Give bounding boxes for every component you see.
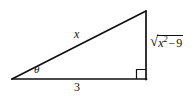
- hypotenuse-label: x: [74, 28, 79, 40]
- radical-sign-icon: √: [150, 34, 158, 49]
- angle-theta-label: θ: [34, 64, 39, 75]
- hypotenuse-line: [12, 11, 146, 79]
- radicand-exponent: 2: [164, 35, 168, 44]
- adjacent-side-label: 3: [74, 81, 80, 93]
- radicand-constant: 9: [176, 36, 182, 50]
- triangle-graphic: [0, 0, 195, 103]
- opposite-side-label: √ x2−9: [150, 35, 183, 50]
- right-angle-marker-icon: [137, 70, 147, 80]
- right-triangle-figure: x θ 3 √ x2−9: [0, 0, 195, 103]
- radicand-expression: x2−9: [157, 35, 183, 50]
